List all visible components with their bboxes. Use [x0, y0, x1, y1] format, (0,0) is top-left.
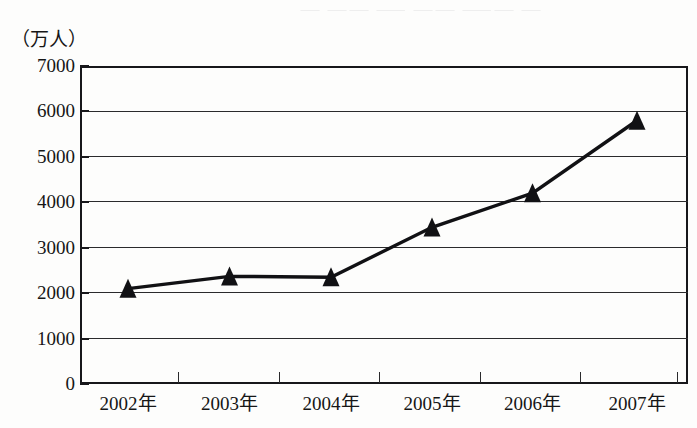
series-line [128, 121, 637, 289]
data-point-marker-2007年 [629, 111, 646, 130]
series-markers [120, 111, 646, 298]
data-series-layer [0, 0, 697, 428]
data-point-marker-2006年 [524, 183, 541, 202]
line-chart: ⸺ ⸺⸺ ⸻ ⸺⸺ ⸻⸺ ⸺ （万人） 01000200030004000500… [0, 0, 697, 428]
